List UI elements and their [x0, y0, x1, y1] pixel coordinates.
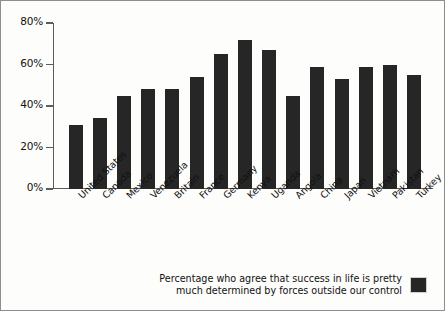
x-axis-labels: United StatesCanadaMexicoVenezuelaBritai…: [55, 191, 433, 261]
y-axis-tick-mark: [46, 147, 53, 149]
bar: [359, 67, 373, 189]
bar: [69, 125, 83, 189]
y-axis-tick-mark: [46, 188, 53, 190]
chart-legend: Percentage who agree that success in lif…: [159, 273, 427, 297]
bar: [214, 54, 228, 189]
bar-slot: [64, 23, 88, 189]
y-axis-tick-label: 0%: [27, 181, 43, 193]
y-axis-tick-label: 40%: [20, 98, 43, 110]
y-axis-tick-mark: [46, 22, 53, 24]
legend-label: Percentage who agree that success in lif…: [159, 273, 402, 297]
bar-chart-figure: 0%20%40%60%80% United StatesCanadaMexico…: [0, 0, 445, 311]
bar: [310, 67, 324, 189]
y-axis: 0%20%40%60%80%: [1, 23, 53, 189]
y-axis-tick-mark: [46, 64, 53, 66]
y-axis-tick-mark: [46, 105, 53, 107]
bar-slot: [257, 23, 281, 189]
y-axis-tick-label: 20%: [20, 140, 43, 152]
bar-slot: [402, 23, 426, 189]
bar-slot: [136, 23, 160, 189]
bar-slot: [281, 23, 305, 189]
bar-slot: [184, 23, 208, 189]
bar-slot: [305, 23, 329, 189]
y-axis-tick-label: 80%: [20, 15, 43, 27]
y-axis-tick-label: 60%: [20, 57, 43, 69]
legend-swatch-icon: [410, 277, 427, 293]
bar: [335, 79, 349, 189]
bar: [262, 50, 276, 189]
bar-slot: [209, 23, 233, 189]
bar-slot: [330, 23, 354, 189]
bar-slot: [378, 23, 402, 189]
bar-slot: [354, 23, 378, 189]
